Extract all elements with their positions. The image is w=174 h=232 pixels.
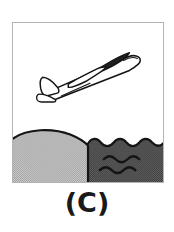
figure-root: (C) <box>0 0 174 232</box>
water-region <box>88 139 163 182</box>
figure-caption: (C) <box>0 186 174 220</box>
scene-illustration <box>13 23 163 182</box>
figure-panel <box>12 22 164 183</box>
land-region <box>13 130 88 182</box>
